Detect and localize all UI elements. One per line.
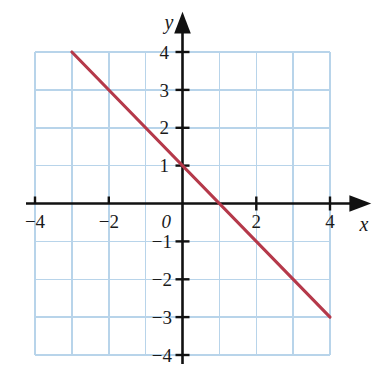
y-tick-label: 3 xyxy=(160,80,170,101)
x-tick-label: 2 xyxy=(252,211,262,232)
y-tick-label: −3 xyxy=(152,307,172,328)
x-axis-label: x xyxy=(359,213,369,235)
y-tick-label: −1 xyxy=(152,231,172,252)
y-tick-label: −2 xyxy=(152,269,172,290)
y-tick-label: 1 xyxy=(160,155,170,176)
y-tick-label: 4 xyxy=(160,42,170,63)
coordinate-plane-figure: −4 −2 2 4 4 3 2 1 −1 −2 −3 −4 0 x y xyxy=(0,0,389,388)
origin-label: 0 xyxy=(162,211,172,232)
x-tick-label: 4 xyxy=(325,211,335,232)
y-tick-label: 2 xyxy=(160,117,170,138)
coordinate-plane-svg: −4 −2 2 4 4 3 2 1 −1 −2 −3 −4 0 x y xyxy=(0,0,389,388)
y-tick-label: −4 xyxy=(152,345,173,366)
y-axis-label: y xyxy=(163,11,174,34)
x-tick-label: −2 xyxy=(99,211,119,232)
x-tick-label: −4 xyxy=(25,211,46,232)
